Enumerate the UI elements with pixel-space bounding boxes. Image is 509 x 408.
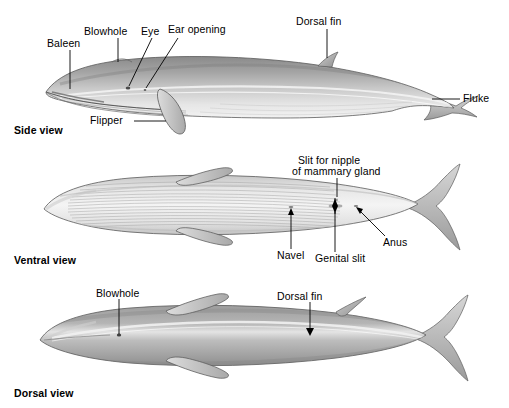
- dorsal-fin-shape: [336, 297, 366, 316]
- label-flipper: Flipper: [90, 115, 123, 127]
- side-ear-opening: [144, 89, 147, 91]
- label-ear-opening: Ear opening: [168, 24, 226, 36]
- label-anus: Anus: [383, 237, 407, 249]
- view-title-ventral: Ventral view: [14, 254, 76, 266]
- ventral-fluke: [408, 164, 460, 250]
- ventral-anus-mark: [354, 205, 358, 207]
- view-title-dorsal: Dorsal view: [14, 387, 73, 399]
- label-eye: Eye: [141, 26, 159, 38]
- label-baleen: Baleen: [47, 38, 80, 50]
- label-fluke: Fluke: [463, 93, 489, 105]
- side-eye: [126, 87, 131, 90]
- label-navel: Navel: [277, 250, 304, 262]
- dorsal-view-whale: [40, 294, 468, 381]
- label-genital-slit: Genital slit: [315, 253, 365, 265]
- view-title-side: Side view: [14, 124, 63, 136]
- label-dorsal-fin-side: Dorsal fin: [296, 16, 341, 28]
- label-blowhole-dorsal: Blowhole: [96, 288, 139, 300]
- dorsal-fluke: [416, 295, 468, 381]
- side-dorsal-fin: [318, 52, 338, 67]
- whale-illustration-layer: [0, 0, 509, 408]
- label-blowhole-side: Blowhole: [84, 26, 127, 38]
- label-dorsal-fin-dorsal: Dorsal fin: [277, 291, 322, 303]
- label-nipple-slit-line2: of mammary gland: [292, 166, 381, 178]
- ventral-navel-mark: [289, 206, 294, 208]
- whale-anatomy-figure: Baleen Blowhole Eye Ear opening Dorsal f…: [0, 0, 509, 408]
